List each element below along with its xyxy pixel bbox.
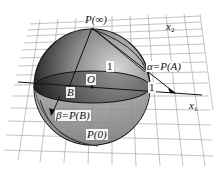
label-unit-top: 1 [106,61,114,72]
label-beta: β=P(B) [55,110,91,121]
label-point-b: B [66,87,75,98]
riemann-sphere-diagram: P(∞) x2 1 α=P(A) O 1 B x1 β=P(B) P(0) [0,0,217,186]
label-north-pole: P(∞) [84,14,108,25]
label-origin: O [86,74,96,85]
diagram-canvas [0,0,217,186]
label-south-pole: P(0) [86,129,108,140]
label-alpha: α=P(A) [146,61,182,72]
origin-point [90,85,93,88]
label-axis-x2-sub: 2 [171,26,175,34]
label-axis-x1: x1 [188,100,198,115]
label-unit-right: 1 [148,82,156,93]
label-axis-x2: x2 [165,21,175,36]
label-axis-x1-sub: 1 [194,105,198,113]
